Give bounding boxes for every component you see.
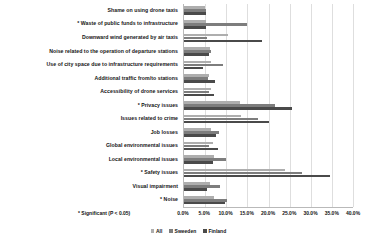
category-row: Shame on using drone taxis (0, 4, 181, 18)
bar-finland (184, 26, 206, 29)
x-tick-label: 5.0% (199, 210, 210, 216)
category-label: Job losses (151, 130, 178, 136)
category-label: Local environmental issues (109, 157, 178, 163)
category-label: Visual impairment (133, 184, 178, 190)
bar-finland (184, 188, 207, 191)
x-axis: 0.0%5.0%10.0%15.0%20.0%25.0%30.0%35.0%40… (183, 207, 353, 220)
category-label: Downward wind generated by air taxis (82, 35, 178, 41)
bar-finland (184, 121, 269, 124)
category-label: Accessibility of drone services (100, 89, 178, 95)
category-row: * Privacy issues (0, 99, 181, 113)
legend-swatch-icon (169, 229, 173, 233)
bar-group (184, 45, 353, 59)
plot-area (183, 4, 353, 207)
bar-group (184, 99, 353, 113)
category-row: Issues related to crime (0, 112, 181, 126)
bar-finland (184, 53, 209, 56)
bar-group (184, 4, 353, 18)
legend-label: All (156, 228, 162, 234)
bar-group (184, 180, 353, 194)
category-label: * Waste of public funds to infrastructur… (77, 21, 178, 27)
category-row: * Noise (0, 193, 181, 207)
bar-finland (184, 94, 214, 97)
bar-group (184, 112, 353, 126)
legend-label: Sweeden (175, 228, 197, 234)
category-row: Visual impairment (0, 180, 181, 194)
category-label: * Noise (160, 197, 178, 203)
bar-group (184, 85, 353, 99)
category-row: Local environmental issues (0, 153, 181, 167)
bar-group (184, 31, 353, 45)
category-row: Use of city space due to infrastructure … (0, 58, 181, 72)
category-row: Job losses (0, 126, 181, 140)
bar-finland (184, 107, 292, 110)
category-label: Additional traffic from/to stations (94, 76, 178, 82)
legend-item-all[interactable]: All (151, 228, 163, 234)
bar-finland (184, 40, 262, 43)
bar-finland (184, 134, 216, 137)
legend-item-finland[interactable]: Finland (203, 228, 226, 234)
bar-group (184, 153, 353, 167)
category-row: * Safety issues (0, 166, 181, 180)
category-axis: Shame on using drone taxis* Waste of pub… (0, 4, 181, 207)
category-row: Noise related to the operation of depart… (0, 45, 181, 59)
category-label: Issues related to crime (121, 116, 178, 122)
category-row: Downward wind generated by air taxis (0, 31, 181, 45)
bar-finland (184, 80, 215, 83)
category-row: Accessibility of drone services (0, 85, 181, 99)
category-row: Global environmental issues (0, 139, 181, 153)
x-tick-label: 0.0% (177, 210, 188, 216)
grouped-bar-chart: Shame on using drone taxis* Waste of pub… (0, 0, 377, 245)
x-tick-label: 15.0% (240, 210, 254, 216)
category-row: * Waste of public funds to infrastructur… (0, 18, 181, 32)
x-tick-label: 30.0% (303, 210, 317, 216)
bars-container (184, 4, 353, 207)
x-tick-label: 25.0% (282, 210, 296, 216)
legend-swatch-icon (203, 229, 207, 233)
category-label: Global environmental issues (106, 143, 178, 149)
bar-group (184, 126, 353, 140)
bar-finland (184, 202, 225, 205)
chart-legend: AllSweedenFinland (0, 228, 377, 234)
bar-group (184, 139, 353, 153)
bar-finland (184, 175, 330, 178)
bar-finland (184, 148, 218, 151)
category-label: Noise related to the operation of depart… (49, 49, 178, 55)
x-tick-label: 40.0% (346, 210, 360, 216)
significance-footnote: * Significant (P < 0.05) (78, 210, 130, 216)
gridline (353, 4, 354, 207)
bar-finland (184, 67, 203, 70)
bar-group (184, 166, 353, 180)
legend-item-sweeden[interactable]: Sweeden (169, 228, 196, 234)
bar-finland (184, 12, 206, 15)
category-label: * Safety issues (141, 170, 178, 176)
bar-group (184, 18, 353, 32)
x-tick-label: 35.0% (325, 210, 339, 216)
legend-label: Finland (208, 228, 226, 234)
bar-finland (184, 161, 213, 164)
category-row: Additional traffic from/to stations (0, 72, 181, 86)
bar-group (184, 58, 353, 72)
x-tick-label: 10.0% (218, 210, 232, 216)
bar-group (184, 193, 353, 207)
category-label: Shame on using drone taxis (108, 8, 178, 14)
x-tick-label: 20.0% (261, 210, 275, 216)
legend-swatch-icon (151, 229, 155, 233)
bar-group (184, 72, 353, 86)
category-label: * Privacy issues (138, 103, 178, 109)
category-label: Use of city space due to infrastructure … (47, 62, 178, 68)
